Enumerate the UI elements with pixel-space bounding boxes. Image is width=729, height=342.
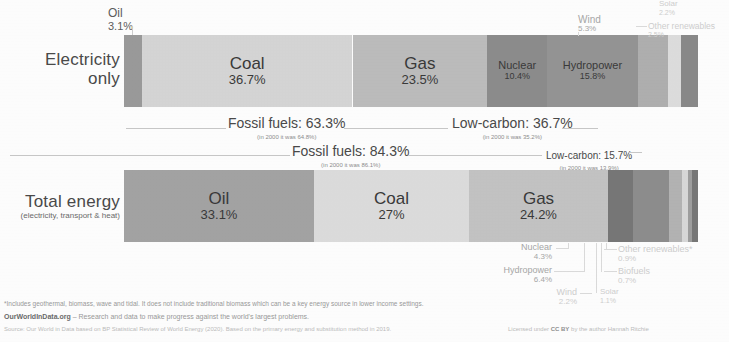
- bracket-rule-total-lowcarbon-right: [628, 152, 642, 153]
- brand-line: OurWorldInData.org – Research and data t…: [4, 313, 309, 320]
- callout-total-hydropower-value: 6.4%: [487, 276, 552, 285]
- bracket-electricity-fossil-note: (in 2000 it was 64.8%): [228, 134, 346, 140]
- license-line: Licensed under CC BY by the author Hanna…: [508, 326, 649, 332]
- brand-name[interactable]: OurWorldInData.org: [4, 313, 71, 320]
- callout-electricity-other-renewables-name: Other renewables: [648, 22, 715, 31]
- guide-total-solar: [596, 243, 597, 293]
- bracket-electricity-lowcarbon: Low-carbon: 36.7% (in 2000 it was 35.2%): [452, 114, 573, 140]
- segment-electricity-oil[interactable]: [124, 35, 142, 107]
- footnote-text: *Includes geothermal, biomass, wave and …: [4, 300, 423, 307]
- bracket-electricity-lowcarbon-note: (in 2000 it was 35.2%): [452, 134, 573, 140]
- license-cc[interactable]: CC BY: [551, 326, 570, 332]
- segment-electricity-gas-value: 23.5%: [402, 73, 439, 87]
- segment-total-oil-name: Oil: [209, 190, 230, 207]
- callout-total-biofuels: Biofuels 0.7%: [618, 267, 650, 286]
- row-label-total-energy-subtitle: (electricity, transport & heat): [4, 212, 120, 221]
- segment-electricity-gas[interactable]: Gas 23.5%: [353, 35, 488, 107]
- bracket-total-lowcarbon-title: Low-carbon: 15.7%: [546, 150, 632, 161]
- segment-total-nuclear[interactable]: [608, 170, 633, 242]
- guide-total-biofuels: [601, 243, 602, 272]
- callout-total-nuclear-value: 4.3%: [497, 253, 552, 262]
- bracket-total-fossil-note: (in 2000 it was 86.1%): [292, 162, 410, 168]
- license-suffix: by the author Hannah Ritchie: [569, 326, 648, 332]
- segment-total-wind[interactable]: [669, 170, 682, 242]
- callout-total-biofuels-value: 0.7%: [618, 277, 650, 286]
- callout-total-hydropower: Hydropower 6.4%: [487, 266, 552, 285]
- leader-total-nuclear: [556, 248, 568, 249]
- leader-total-hydropower: [554, 271, 584, 272]
- segment-electricity-other-renewables[interactable]: [681, 35, 698, 107]
- callout-total-solar: Solar 1.1%: [600, 288, 619, 304]
- callout-electricity-wind-value: 5.3%: [578, 25, 601, 34]
- segment-electricity-wind[interactable]: [638, 35, 668, 107]
- callout-electricity-solar-name: Solar: [659, 0, 678, 9]
- segment-total-coal-name: Coal: [374, 190, 409, 207]
- segment-electricity-coal-name: Coal: [230, 55, 265, 72]
- segment-total-hydropower[interactable]: [633, 170, 670, 242]
- row-label-total-energy: Total energy (electricity, transport & h…: [4, 192, 120, 221]
- brand-tagline: – Research and data to make progress aga…: [71, 313, 309, 320]
- callout-total-solar-name: Solar: [600, 288, 619, 297]
- segment-total-coal-value: 27%: [378, 208, 404, 222]
- segment-electricity-nuclear[interactable]: Nuclear 10.4%: [487, 35, 547, 107]
- leader-electricity-other-renewables: [636, 26, 647, 27]
- callout-electricity-other-renewables-value: 2.5%: [648, 31, 715, 39]
- bar-electricity: Coal 36.7% Gas 23.5% Nuclear 10.4% Hydro…: [124, 35, 698, 107]
- bracket-electricity-fossil-title: Fossil fuels: 63.3%: [228, 115, 346, 131]
- segment-electricity-nuclear-value: 10.4%: [504, 72, 530, 82]
- callout-electricity-oil-name: Oil: [108, 7, 133, 20]
- callout-electricity-other-renewables: Other renewables 2.5%: [648, 22, 715, 39]
- leader-total-nuclear-vert: [568, 243, 569, 249]
- callout-total-other-renewables-value: 0.9%: [618, 255, 693, 264]
- bracket-electricity-fossil: Fossil fuels: 63.3% (in 2000 it was 64.8…: [228, 114, 346, 140]
- callout-total-solar-value: 1.1%: [600, 297, 619, 305]
- segment-total-gas-name: Gas: [523, 190, 554, 207]
- callout-electricity-oil-value: 3.1%: [108, 20, 133, 32]
- segment-total-gas-value: 24.2%: [520, 208, 557, 222]
- bracket-electricity-lowcarbon-title: Low-carbon: 36.7%: [452, 115, 573, 131]
- segment-total-gas[interactable]: Gas 24.2%: [469, 170, 608, 242]
- callout-electricity-solar-value: 2.2%: [659, 9, 678, 17]
- callout-electricity-wind: Wind 5.3%: [578, 14, 601, 34]
- segment-electricity-coal[interactable]: Coal 36.7%: [142, 35, 353, 107]
- bracket-total-fossil: Fossil fuels: 84.3% (in 2000 it was 86.1…: [292, 142, 410, 168]
- segment-electricity-solar[interactable]: [668, 35, 681, 107]
- segment-total-oil-value: 33.1%: [201, 208, 238, 222]
- callout-total-other-renewables: Other renewables* 0.9%: [618, 245, 693, 264]
- row-label-electricity-line2: only: [8, 69, 120, 88]
- bracket-total-lowcarbon: Low-carbon: 15.7% (in 2000 it was 13.9%): [546, 145, 632, 171]
- segment-electricity-nuclear-name: Nuclear: [498, 60, 536, 71]
- bracket-rule-total-fossil-left: [10, 155, 290, 156]
- bracket-rule-electricity-fossil-left: [126, 128, 226, 129]
- segment-electricity-hydropower-value: 15.8%: [580, 72, 606, 82]
- segment-electricity-hydropower[interactable]: Hydropower 15.8%: [547, 35, 638, 107]
- callout-total-wind: Wind 2.2%: [527, 288, 577, 307]
- segment-electricity-coal-value: 36.7%: [229, 73, 266, 87]
- segment-total-coal[interactable]: Coal 27%: [314, 170, 469, 242]
- callout-total-wind-value: 2.2%: [527, 298, 577, 307]
- bracket-total-fossil-title: Fossil fuels: 84.3%: [292, 143, 410, 159]
- chart-canvas: Electricity only Coal 36.7% Gas 23.5% Nu…: [0, 0, 729, 342]
- row-label-total-energy-title: Total energy: [4, 192, 120, 211]
- leader-electricity-wind: [578, 32, 579, 36]
- bracket-rule-total-fossil-right: [408, 155, 542, 156]
- guide-total-other: [606, 243, 607, 250]
- leader-total-hydropower-vert: [584, 243, 585, 272]
- bracket-rule-electricity-fossil-right: [344, 128, 448, 129]
- leader-total-wind: [580, 293, 592, 294]
- leader-total-biofuels: [604, 271, 617, 272]
- segment-total-other-renewables[interactable]: [692, 170, 698, 242]
- callout-electricity-solar: Solar 2.2%: [659, 0, 678, 16]
- callout-electricity-oil: Oil 3.1%: [108, 7, 133, 32]
- segment-electricity-gas-name: Gas: [404, 55, 435, 72]
- segment-total-oil[interactable]: Oil 33.1%: [124, 170, 314, 242]
- row-label-electricity-line1: Electricity: [8, 50, 120, 69]
- source-line: Source: Our World in Data based on BP St…: [4, 326, 391, 332]
- row-label-electricity: Electricity only: [8, 50, 120, 88]
- leader-electricity-oil: [132, 26, 133, 35]
- bar-total-energy: Oil 33.1% Coal 27% Gas 24.2%: [124, 170, 698, 242]
- segment-electricity-hydropower-name: Hydropower: [563, 60, 622, 71]
- license-prefix: Licensed under: [508, 326, 551, 332]
- callout-total-nuclear: Nuclear 4.3%: [497, 243, 552, 262]
- bracket-rule-electricity-lowcarbon-right: [562, 128, 598, 129]
